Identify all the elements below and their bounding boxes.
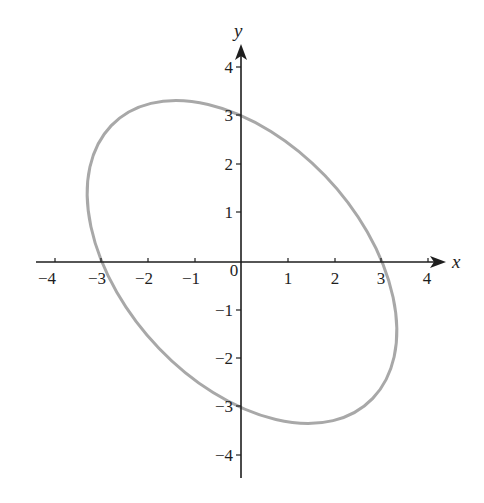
y-tick-label: −2 bbox=[215, 349, 233, 368]
y-tick-label: 4 bbox=[225, 58, 234, 77]
y-tick-label: 2 bbox=[225, 155, 234, 174]
x-tick-label: 1 bbox=[284, 269, 293, 288]
x-tick-label: −2 bbox=[135, 269, 153, 288]
y-tick-label: −4 bbox=[215, 446, 234, 465]
x-axis-label: x bbox=[451, 251, 461, 272]
x-tick-label: −4 bbox=[38, 269, 57, 288]
x-tick-label: 2 bbox=[331, 269, 340, 288]
y-axis-label: y bbox=[232, 20, 243, 41]
y-tick-label: −3 bbox=[215, 397, 233, 416]
x-tick-label: 3 bbox=[377, 269, 386, 288]
x-tick-label: 0 bbox=[230, 261, 239, 280]
y-tick-label: 3 bbox=[225, 106, 234, 125]
y-tick-label: −1 bbox=[215, 301, 233, 320]
x-tick-label: 4 bbox=[423, 269, 432, 288]
chart: −4 −3 −2 −1 0 1 2 3 4 x 4 3 2 1 −1 −2 −3… bbox=[0, 0, 484, 503]
y-tick-label: 1 bbox=[225, 203, 234, 222]
x-tick-label: −3 bbox=[88, 269, 106, 288]
x-tick-label: −1 bbox=[182, 269, 200, 288]
